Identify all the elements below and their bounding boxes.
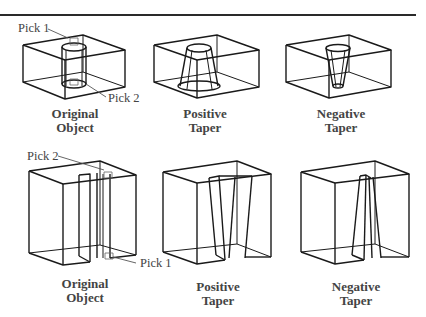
caption-line-2: Taper [291, 121, 391, 135]
top-positive-taper-drawing [154, 35, 259, 98]
bottom-negative-taper-drawing [301, 161, 409, 264]
caption-line-2: Taper [155, 121, 255, 135]
caption-top-positive: Positive Taper [155, 107, 255, 135]
caption-line-1: Negative [291, 107, 391, 121]
caption-bottom-original: Original Object [35, 277, 135, 305]
caption-line-2: Taper [306, 294, 406, 308]
taper-diagram [0, 0, 426, 317]
caption-top-negative: Negative Taper [291, 107, 391, 135]
caption-bottom-positive: Positive Taper [168, 280, 268, 308]
pick-1-label-top: Pick 1 [18, 22, 50, 35]
caption-line-1: Negative [306, 280, 406, 294]
caption-bottom-negative: Negative Taper [306, 280, 406, 308]
caption-line-1: Original [25, 107, 125, 121]
caption-line-1: Positive [155, 107, 255, 121]
caption-line-2: Object [35, 291, 135, 305]
caption-top-original: Original Object [25, 107, 125, 135]
bottom-original-object-drawing [29, 156, 136, 265]
top-negative-taper-drawing [286, 35, 391, 98]
pick-2-label-bottom: Pick 2 [27, 150, 59, 163]
top-original-object-drawing [23, 29, 125, 99]
caption-line-1: Original [35, 277, 135, 291]
pick-2-label-top: Pick 2 [108, 92, 140, 105]
bottom-positive-taper-drawing [163, 161, 271, 264]
caption-line-2: Taper [168, 294, 268, 308]
caption-line-1: Positive [168, 280, 268, 294]
pick-1-label-bottom: Pick 1 [140, 257, 172, 270]
caption-line-2: Object [25, 121, 125, 135]
